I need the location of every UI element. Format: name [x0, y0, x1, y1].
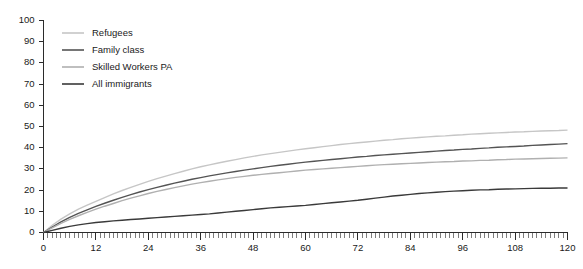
y-axis-tick-label: 40 [24, 141, 35, 152]
y-axis-tick-label: 70 [24, 78, 35, 89]
x-axis-tick-label: 24 [143, 242, 154, 253]
legend-label-0: Refugees [92, 27, 133, 38]
x-axis-tick-label: 48 [248, 242, 259, 253]
chart-legend: RefugeesFamily classSkilled Workers PAAl… [62, 27, 173, 89]
line-chart: 0102030405060708090100 01224364860728496… [0, 0, 583, 269]
y-axis-tick-label: 50 [24, 120, 35, 131]
x-axis-major-tick-group: 01224364860728496108120 [41, 233, 576, 253]
series-group [44, 130, 568, 232]
legend-label-1: Family class [92, 44, 145, 55]
series-line-2 [44, 158, 568, 233]
y-axis-tick-label: 100 [19, 14, 35, 25]
y-axis-tick-group: 0102030405060708090100 [19, 14, 44, 237]
series-line-0 [44, 130, 568, 232]
y-axis-tick-label: 0 [29, 226, 34, 237]
x-axis-tick-label: 108 [507, 242, 523, 253]
y-axis-tick-label: 10 [24, 205, 35, 216]
series-line-3 [44, 188, 568, 233]
legend-label-3: All immigrants [92, 78, 152, 89]
x-axis-tick-label: 72 [353, 242, 364, 253]
x-axis-tick-label: 0 [41, 242, 46, 253]
x-axis-tick-label: 12 [91, 242, 102, 253]
y-axis-tick-label: 80 [24, 56, 35, 67]
x-axis-tick-label: 60 [300, 242, 311, 253]
y-axis-tick-label: 20 [24, 184, 35, 195]
y-axis-tick-label: 30 [24, 162, 35, 173]
x-axis-tick-label: 36 [195, 242, 206, 253]
x-axis-tick-label: 120 [560, 242, 576, 253]
x-axis-tick-label: 84 [405, 242, 416, 253]
x-axis-tick-label: 96 [457, 242, 468, 253]
series-line-1 [44, 144, 568, 233]
chart-container: 0102030405060708090100 01224364860728496… [0, 0, 583, 269]
legend-label-2: Skilled Workers PA [92, 61, 173, 72]
y-axis-tick-label: 90 [24, 35, 35, 46]
y-axis-tick-label: 60 [24, 99, 35, 110]
